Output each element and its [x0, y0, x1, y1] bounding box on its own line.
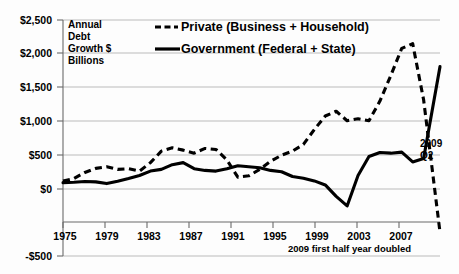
xtick-label-1987: 1987: [179, 230, 203, 242]
series-lines: [63, 44, 440, 233]
ytick-label-1000: $1,000: [20, 115, 52, 127]
xtick-label-1983: 1983: [137, 230, 161, 242]
debt-growth-chart: $2,500 $2,000 $1,500 $1,000 $500 $0 -$50…: [0, 0, 459, 274]
xtick-label-2003: 2003: [347, 230, 371, 242]
legend-label-government: Government (Federal + State): [181, 42, 356, 56]
chart-legend: Private (Business + Household) Governmen…: [155, 20, 369, 56]
axis-title-line-4: Billions: [68, 55, 105, 66]
axis-title-line-3: Growth $: [68, 43, 112, 54]
annotation-2009-q2-line2: Q2: [420, 150, 434, 161]
axis-title-line-2: Debt: [68, 31, 91, 42]
y-axis-title-block: Annual Debt Growth $ Billions: [68, 19, 112, 66]
xtick-label-1979: 1979: [95, 230, 119, 242]
x-tick-labels: 1975 1979 1983 1987 1991 1995 1999 2003 …: [53, 230, 413, 242]
ytick-label-500: $500: [29, 149, 53, 161]
ytick-label-2500: $2,500: [20, 14, 52, 26]
x-tick-marks: [63, 222, 399, 228]
xtick-label-2007: 2007: [389, 230, 413, 242]
annotation-2009-q2-line1: 2009: [420, 138, 443, 149]
y-tick-marks: [57, 20, 63, 256]
annotation-footnote: 2009 first half year doubled: [288, 243, 411, 254]
ytick-label-1500: $1,500: [20, 81, 52, 93]
series-line-private: [63, 44, 440, 233]
xtick-label-1995: 1995: [263, 230, 287, 242]
ytick-label-0: $0: [40, 183, 52, 195]
ytick-label-minus500: -$500: [25, 250, 52, 262]
legend-label-private: Private (Business + Household): [181, 20, 369, 34]
ytick-label-2000: $2,000: [20, 47, 52, 59]
xtick-label-1975: 1975: [53, 230, 77, 242]
series-line-government: [63, 67, 440, 206]
chart-canvas: $2,500 $2,000 $1,500 $1,000 $500 $0 -$50…: [0, 0, 459, 274]
y-tick-labels: $2,500 $2,000 $1,500 $1,000 $500 $0 -$50…: [20, 14, 52, 262]
axis-title-line-1: Annual: [68, 19, 102, 30]
xtick-label-1999: 1999: [305, 230, 329, 242]
xtick-label-1991: 1991: [221, 230, 245, 242]
